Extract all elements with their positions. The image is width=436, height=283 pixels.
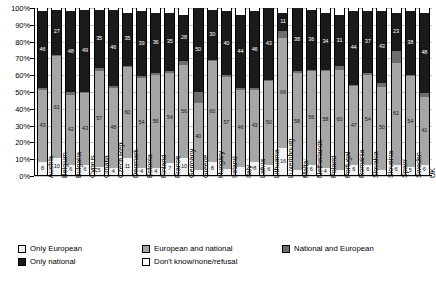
bar-segment[interactable] bbox=[108, 8, 119, 10]
bar-segment[interactable] bbox=[51, 8, 62, 10]
bar-segment[interactable] bbox=[51, 55, 62, 57]
bar-segment[interactable] bbox=[405, 75, 416, 77]
bar-segment[interactable]: 23 bbox=[391, 13, 402, 51]
bar-segment[interactable] bbox=[348, 85, 359, 87]
bar-segment[interactable]: 38 bbox=[405, 11, 416, 74]
bar-segment[interactable] bbox=[405, 8, 416, 11]
bar-segment[interactable] bbox=[376, 8, 387, 11]
bar-segment[interactable]: 30 bbox=[207, 10, 218, 60]
bar-column[interactable]: 5740 bbox=[221, 8, 232, 175]
bar-segment[interactable] bbox=[334, 8, 345, 15]
bar-column[interactable]: 45636 bbox=[150, 8, 161, 175]
legend-item-european-and-national[interactable]: European and national bbox=[142, 244, 270, 253]
bar-segment[interactable] bbox=[277, 8, 288, 13]
bar-segment[interactable]: 37 bbox=[362, 11, 373, 73]
bar-segment[interactable] bbox=[122, 8, 133, 13]
bar-segment[interactable] bbox=[178, 8, 189, 15]
bar-segment[interactable]: 57 bbox=[94, 71, 105, 166]
bar-segment[interactable]: 11 bbox=[277, 13, 288, 31]
bar-segment[interactable] bbox=[235, 88, 246, 90]
bar-segment[interactable] bbox=[306, 70, 317, 72]
bar-segment[interactable]: 46 bbox=[249, 11, 260, 88]
legend-item-national-and-european[interactable]: National and European bbox=[282, 244, 374, 253]
bar-segment[interactable]: 66 bbox=[277, 38, 288, 148]
bar-segment[interactable]: 36 bbox=[150, 13, 161, 73]
bar-segment[interactable] bbox=[348, 8, 359, 11]
bar-segment[interactable] bbox=[221, 75, 232, 77]
bar-segment[interactable]: 43 bbox=[263, 8, 274, 80]
bar-segment[interactable]: 46 bbox=[108, 10, 119, 87]
bar-segment[interactable] bbox=[306, 8, 317, 10]
bar-segment[interactable]: 46 bbox=[37, 11, 48, 88]
bar-segment[interactable] bbox=[94, 8, 105, 10]
bar-segment[interactable]: 28 bbox=[178, 15, 189, 62]
bar-segment[interactable]: 43 bbox=[249, 90, 260, 162]
bar-segment[interactable] bbox=[193, 92, 204, 104]
bar-segment[interactable] bbox=[37, 8, 48, 11]
bar-column[interactable]: 64349 bbox=[79, 8, 90, 175]
legend-item-only-european[interactable]: Only European bbox=[18, 244, 130, 253]
bar-segment[interactable]: 34 bbox=[320, 13, 331, 70]
bar-segment[interactable] bbox=[419, 93, 430, 96]
bar-segment[interactable] bbox=[277, 31, 288, 38]
bar-segment[interactable]: 50 bbox=[193, 8, 204, 92]
bar-column[interactable]: 84346 bbox=[249, 8, 260, 175]
bar-column[interactable]: 64148 bbox=[419, 8, 430, 175]
bar-segment[interactable]: 35 bbox=[94, 10, 105, 68]
bar-segment[interactable] bbox=[376, 83, 387, 86]
bar-segment[interactable] bbox=[419, 8, 430, 13]
bar-segment[interactable] bbox=[362, 8, 373, 11]
bar-column[interactable]: 55438 bbox=[405, 8, 416, 175]
bar-segment[interactable]: 27 bbox=[51, 10, 62, 55]
bar-segment[interactable] bbox=[65, 8, 76, 11]
bar-column[interactable]: 106127 bbox=[51, 8, 62, 175]
bar-segment[interactable] bbox=[320, 8, 331, 13]
bar-segment[interactable]: 48 bbox=[65, 11, 76, 91]
bar-segment[interactable] bbox=[164, 8, 175, 13]
bar-segment[interactable] bbox=[136, 8, 147, 11]
bar-column[interactable]: 55735 bbox=[94, 8, 105, 175]
bar-segment[interactable] bbox=[221, 8, 232, 11]
bar-segment[interactable]: 48 bbox=[419, 13, 430, 93]
bar-segment[interactable]: 40 bbox=[221, 11, 232, 75]
bar-column[interactable]: 6031 bbox=[334, 8, 345, 175]
bar-segment[interactable] bbox=[79, 92, 90, 94]
bar-segment[interactable] bbox=[207, 60, 218, 62]
bar-segment[interactable]: 54 bbox=[164, 73, 175, 163]
bar-segment[interactable]: 31 bbox=[334, 15, 345, 67]
bar-segment[interactable]: 39 bbox=[136, 11, 147, 76]
bar-segment[interactable] bbox=[249, 88, 260, 90]
bar-segment[interactable]: 35 bbox=[164, 13, 175, 71]
bar-segment[interactable] bbox=[122, 66, 133, 68]
bar-column[interactable]: 4644 bbox=[235, 8, 246, 175]
bar-segment[interactable]: 61 bbox=[391, 63, 402, 165]
bar-segment[interactable] bbox=[65, 92, 76, 95]
bar-segment[interactable] bbox=[362, 73, 373, 75]
bar-segment[interactable]: 44 bbox=[235, 15, 246, 88]
bar-segment[interactable] bbox=[108, 86, 119, 88]
bar-segment[interactable] bbox=[391, 8, 402, 13]
bar-segment[interactable] bbox=[263, 80, 274, 82]
bar-segment[interactable]: 38 bbox=[292, 8, 303, 71]
bar-column[interactable]: 86030 bbox=[207, 8, 218, 175]
bar-segment[interactable] bbox=[94, 68, 105, 71]
bar-column[interactable]: 64248 bbox=[65, 8, 76, 175]
bar-segment[interactable] bbox=[136, 76, 147, 78]
bar-segment[interactable]: 49 bbox=[79, 10, 90, 92]
bar-segment[interactable] bbox=[334, 66, 345, 69]
bar-segment[interactable]: 60 bbox=[207, 61, 218, 161]
bar-segment[interactable]: 61 bbox=[51, 56, 62, 158]
bar-segment[interactable] bbox=[150, 8, 161, 13]
bar-segment[interactable] bbox=[37, 88, 48, 90]
bar-segment[interactable]: 35 bbox=[122, 13, 133, 66]
legend-item-only-national[interactable]: Only national bbox=[18, 257, 130, 266]
bar-column[interactable]: 75435 bbox=[164, 8, 175, 175]
bar-segment[interactable] bbox=[79, 8, 90, 10]
bar-column[interactable]: 84346 bbox=[37, 8, 48, 175]
bar-segment[interactable] bbox=[292, 71, 303, 73]
bar-segment[interactable] bbox=[164, 71, 175, 73]
bar-segment[interactable]: 36 bbox=[306, 10, 317, 70]
bar-segment[interactable] bbox=[320, 70, 331, 72]
bar-segment[interactable]: 43 bbox=[376, 11, 387, 83]
bar-segment[interactable] bbox=[207, 8, 218, 10]
